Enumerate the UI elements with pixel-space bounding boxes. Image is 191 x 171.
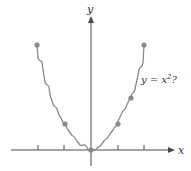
curve-annotation: y = x2? xyxy=(140,73,178,85)
data-point xyxy=(88,147,93,152)
y-axis-label: y xyxy=(86,3,94,16)
annotation-lhs: y = x xyxy=(140,74,167,85)
data-point xyxy=(141,42,146,47)
x-axis-label: x xyxy=(178,144,185,157)
data-point xyxy=(34,42,39,47)
annotation-suffix: ? xyxy=(172,74,178,85)
data-point xyxy=(128,95,133,100)
data-point xyxy=(62,121,67,126)
data-point xyxy=(115,121,120,126)
x-axis-arrow-icon xyxy=(168,147,175,153)
chart: x y y = x2? xyxy=(0,0,191,171)
y-axis-arrow-icon xyxy=(88,16,94,23)
